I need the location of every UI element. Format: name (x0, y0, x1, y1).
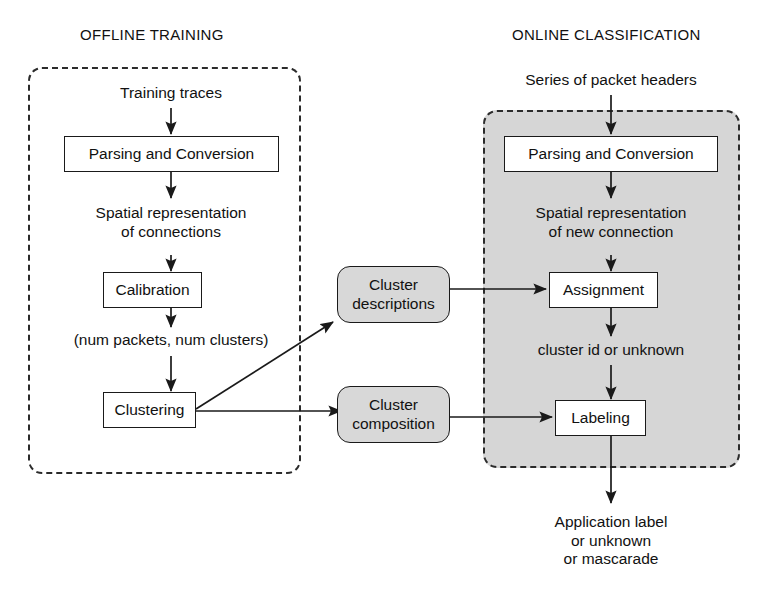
store-cluster-descriptions[interactable]: Cluster descriptions (337, 266, 450, 323)
box-assignment[interactable]: Assignment (549, 272, 658, 308)
box-calibration[interactable]: Calibration (103, 272, 202, 308)
store-cluster-composition-line1: Cluster (369, 396, 418, 414)
store-cluster-composition[interactable]: Cluster composition (337, 386, 450, 443)
label-spatial-representation-of-new-connection: Spatial representation of new connection (501, 204, 721, 241)
box-clustering[interactable]: Clustering (103, 392, 196, 428)
label-series-of-packet-headers: Series of packet headers (501, 71, 721, 90)
box-online-parsing-and-conversion[interactable]: Parsing and Conversion (504, 136, 718, 172)
store-cluster-descriptions-line1: Cluster (369, 276, 418, 294)
store-cluster-composition-line2: composition (352, 415, 435, 433)
diagram-canvas: OFFLINE TRAINING ONLINE CLASSIFICATION T… (0, 0, 766, 593)
label-cluster-id-or-unknown: cluster id or unknown (501, 341, 721, 360)
label-spatial-representation-of-connections: Spatial representation of connections (61, 204, 281, 241)
label-training-traces: Training traces (71, 84, 271, 103)
store-cluster-descriptions-line2: descriptions (352, 295, 435, 313)
section-title-online: ONLINE CLASSIFICATION (512, 26, 701, 43)
box-offline-parsing-and-conversion[interactable]: Parsing and Conversion (64, 136, 279, 172)
label-num-packets-num-clusters: (num packets, num clusters) (41, 331, 301, 350)
box-labeling[interactable]: Labeling (555, 400, 646, 436)
section-title-offline: OFFLINE TRAINING (80, 26, 224, 43)
label-application-output: Application label or unknown or mascarad… (501, 513, 721, 569)
